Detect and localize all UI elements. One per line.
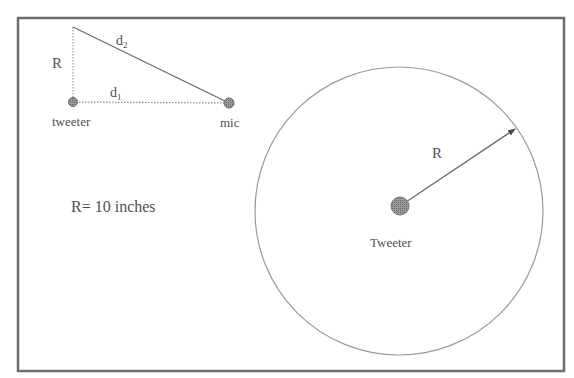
- radius-circle-diagram: R Tweeter: [255, 67, 543, 355]
- hypotenuse-d2: [73, 27, 229, 103]
- triangle-inset: R d2 d1 tweeter mic: [52, 27, 240, 130]
- radius-arrow: [400, 129, 515, 206]
- circle-radius-label: R: [432, 145, 442, 161]
- tweeter-label: tweeter: [52, 114, 91, 129]
- horizontal-label-subscript: 1: [117, 92, 122, 102]
- hypotenuse-label-base: d: [116, 33, 123, 48]
- radius-value-annotation: R= 10 inches: [71, 198, 156, 215]
- horizontal-label-base: d: [110, 85, 117, 100]
- tweeter-mic-geometry-diagram: R d2 d1 tweeter mic R= 10 inches R Tweet…: [0, 0, 574, 378]
- figure-frame: [18, 18, 564, 371]
- mic-point-icon: [224, 98, 234, 108]
- mic-label: mic: [220, 115, 240, 130]
- tweeter-point-icon: [69, 98, 78, 107]
- vertical-side-label: R: [52, 55, 62, 71]
- hypotenuse-label: d2: [116, 33, 128, 50]
- horizontal-label: d1: [110, 85, 122, 102]
- hypotenuse-label-subscript: 2: [123, 40, 128, 50]
- tweeter-center-icon: [391, 197, 409, 215]
- circle-tweeter-label: Tweeter: [370, 235, 412, 250]
- horizontal-side-d1: [73, 102, 229, 103]
